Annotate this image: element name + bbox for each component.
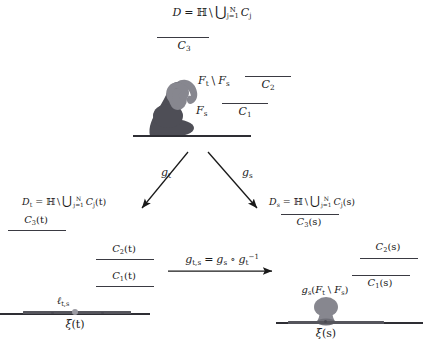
right-segment — [288, 321, 384, 324]
label-xi-s: ξ(s) — [316, 327, 336, 340]
right-hull-image-shape — [0, 0, 423, 350]
diagram-canvas: D=ℍ\⋃Nj=1Cj C3 C2 C1 Ft\Fs Fs — [0, 0, 423, 350]
